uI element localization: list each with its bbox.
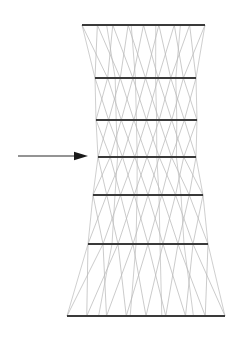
ring-bars-group [67,25,225,316]
leg-lines-group [67,25,225,316]
load-arrow-group [18,152,88,160]
tower-leg-chord [196,25,225,316]
panel-brace-zig [95,78,196,120]
panel-brace-zag [96,78,197,120]
panel-brace-zig [96,120,197,157]
diagonal-bracing-group [67,25,225,316]
panel-brace-zig [98,157,196,195]
tower-leg-chord [67,25,98,316]
load-arrow-head [74,152,88,160]
tower-diagram [0,0,247,339]
tower-leg-chord [130,25,137,316]
panel-brace-zag [98,120,196,157]
panel-brace-zig [93,195,203,244]
figure-root [0,0,247,339]
